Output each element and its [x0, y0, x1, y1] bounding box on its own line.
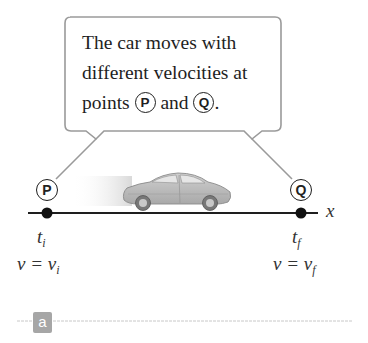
callout-line-2: different velocities at	[82, 58, 282, 88]
callout-pointer-q	[252, 139, 292, 179]
motion-blur	[72, 176, 132, 206]
x-axis-label: x	[326, 200, 334, 222]
time-initial: ti	[37, 226, 46, 251]
velocity-final: v = vf	[273, 253, 316, 278]
point-p-dot	[42, 208, 53, 219]
callout-line-1: The car moves with	[82, 28, 282, 58]
point-p-label: P	[36, 179, 58, 201]
callout-text: The car moves with different velocities …	[82, 28, 282, 118]
car-icon	[123, 173, 230, 211]
callout-line-3: points P and Q.	[82, 88, 282, 118]
time-final: tf	[292, 226, 301, 251]
point-p-inline-icon: P	[135, 92, 156, 113]
point-q-label: Q	[290, 179, 312, 201]
point-q-dot	[296, 208, 307, 219]
velocity-initial: v = vi	[17, 253, 60, 278]
panel-label-badge: a	[33, 312, 52, 333]
callout-pointer-p	[56, 139, 96, 179]
point-q-inline-icon: Q	[193, 92, 214, 113]
